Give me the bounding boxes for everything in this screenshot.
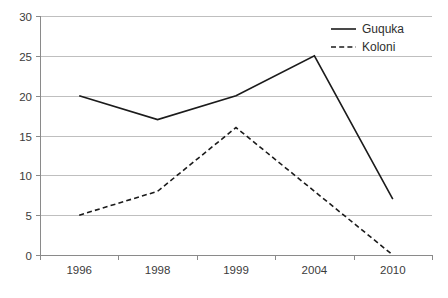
chart-canvas: 051015202530 19961998199920042010 Guquka… [0,0,448,298]
legend-label-guquka: Guquka [362,22,404,36]
legend-label-koloni: Koloni [362,40,395,54]
x-tick-label: 1996 [66,264,92,276]
y-tick-label: 30 [19,11,32,23]
y-tick-label: 15 [19,131,32,143]
y-tick-label: 0 [26,250,32,262]
x-tick-label: 2004 [302,264,328,276]
y-tick-label: 10 [19,170,32,182]
x-tick-label: 1998 [145,264,171,276]
x-tick-label: 1999 [223,264,249,276]
x-tick-label: 2010 [380,264,406,276]
y-tick-label: 25 [19,51,32,63]
line-chart: 051015202530 19961998199920042010 Guquka… [0,0,448,298]
y-tick-label: 20 [19,91,32,103]
y-tick-label: 5 [26,210,32,222]
